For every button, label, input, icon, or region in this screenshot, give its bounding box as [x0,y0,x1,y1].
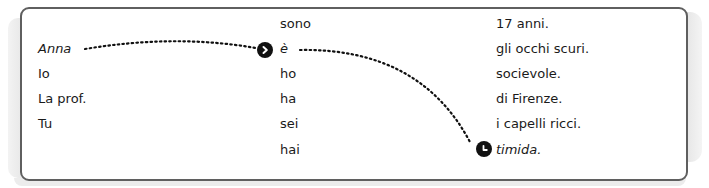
verb-sei: sei [280,116,298,132]
connector-lines [0,0,709,188]
dotted-line-e-to-timida [300,50,470,142]
complement-occhi-scuri: gli occhi scuri. [496,41,589,57]
complement-17-anni: 17 anni. [496,16,549,32]
complement-socievole: socievole. [496,66,561,82]
complement-di-firenze: di Firenze. [496,91,562,107]
chevron-right-icon [257,42,273,58]
complement-capelli-ricci: i capelli ricci. [496,116,581,132]
subject-io: Io [38,66,50,82]
complement-timida: timida. [496,142,541,158]
verb-e: è [280,41,288,57]
subject-tu: Tu [38,116,52,132]
subject-anna: Anna [38,41,71,57]
verb-sono: sono [280,16,311,32]
verb-ha: ha [280,91,296,107]
clock-icon [476,141,492,157]
verb-hai: hai [280,142,300,158]
dotted-line-anna-to-e [85,41,256,49]
verb-ho: ho [280,66,296,82]
subject-la-prof: La prof. [38,91,86,107]
